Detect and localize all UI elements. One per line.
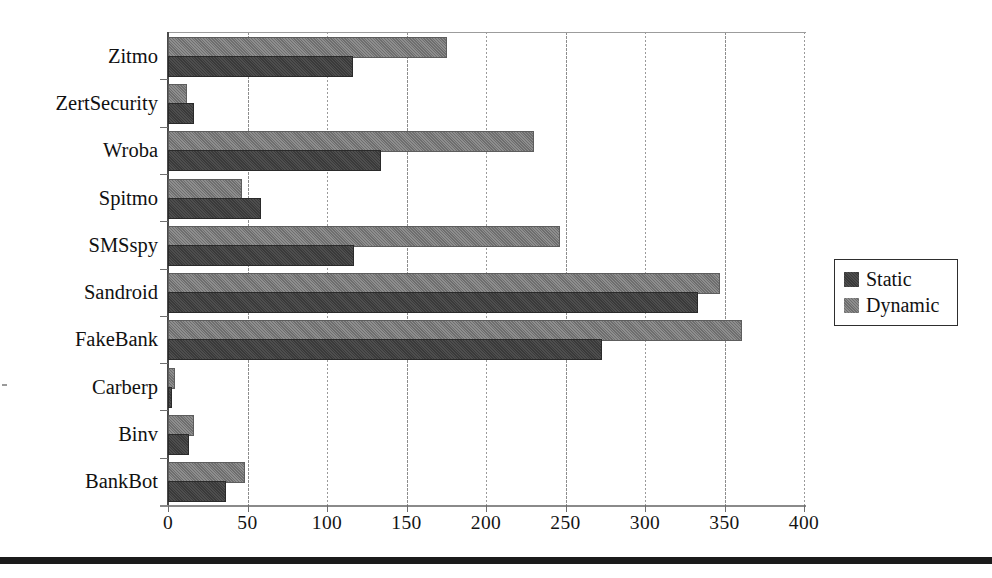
x-tick-label-400: 400 bbox=[774, 512, 834, 534]
x-tick-label-50: 50 bbox=[218, 512, 278, 534]
x-tick-100 bbox=[327, 505, 328, 512]
x-tick-label-350: 350 bbox=[695, 512, 755, 534]
gridline-400 bbox=[804, 32, 805, 505]
legend-label-dynamic: Dynamic bbox=[866, 295, 939, 315]
legend-swatch-static-icon bbox=[844, 272, 859, 287]
x-tick-200 bbox=[486, 505, 487, 512]
y-tick-bankbot bbox=[160, 458, 168, 459]
bar-dynamic-bankbot bbox=[168, 462, 245, 483]
x-tick-150 bbox=[407, 505, 408, 512]
x-tick-label-300: 300 bbox=[615, 512, 675, 534]
plot-area bbox=[168, 32, 804, 504]
category-label-sandroid: Sandroid bbox=[0, 282, 158, 303]
bar-dynamic-zertsecurity bbox=[168, 84, 187, 105]
bar-static-bankbot bbox=[168, 481, 226, 502]
x-tick-label-150: 150 bbox=[377, 512, 437, 534]
bar-dynamic-zitmo bbox=[168, 37, 447, 58]
category-label-zertsecurity: ZertSecurity bbox=[0, 93, 158, 114]
x-tick-label-250: 250 bbox=[536, 512, 596, 534]
bar-dynamic-spitmo bbox=[168, 179, 242, 200]
y-tick-zertsecurity bbox=[160, 79, 168, 80]
bar-dynamic-wroba bbox=[168, 131, 534, 152]
bar-static-wroba bbox=[168, 150, 381, 171]
legend-entry-static: Static bbox=[844, 266, 949, 292]
bar-dynamic-smsspy bbox=[168, 226, 560, 247]
category-axis-line bbox=[160, 505, 806, 507]
bar-static-zitmo bbox=[168, 56, 353, 77]
bar-static-binv bbox=[168, 434, 189, 455]
y-tick-wroba bbox=[160, 127, 168, 128]
bar-static-spitmo bbox=[168, 198, 261, 219]
category-label-binv: Binv bbox=[0, 424, 158, 445]
chart-legend: Static Dynamic bbox=[834, 259, 958, 326]
bar-static-sandroid bbox=[168, 292, 698, 313]
bar-dynamic-binv bbox=[168, 415, 194, 436]
y-tick-carberp bbox=[160, 363, 168, 364]
category-label-fakebank: FakeBank bbox=[0, 329, 158, 350]
bar-static-fakebank bbox=[168, 339, 602, 360]
x-tick-label-100: 100 bbox=[297, 512, 357, 534]
bar-static-zertsecurity bbox=[168, 103, 194, 124]
legend-label-static: Static bbox=[866, 269, 912, 289]
category-label-zitmo: Zitmo bbox=[0, 46, 158, 67]
y-tick-sandroid bbox=[160, 269, 168, 270]
legend-swatch-dynamic-icon bbox=[844, 298, 859, 313]
y-tick-binv bbox=[160, 410, 168, 411]
legend-entry-dynamic: Dynamic bbox=[844, 292, 949, 318]
category-label-smsspy: SMSspy bbox=[0, 235, 158, 256]
bar-dynamic-carberp bbox=[168, 368, 175, 389]
x-tick-50 bbox=[248, 505, 249, 512]
x-tick-label-0: 0 bbox=[138, 512, 198, 534]
category-label-bankbot: BankBot bbox=[0, 471, 158, 492]
bar-static-smsspy bbox=[168, 245, 354, 266]
bar-static-carberp bbox=[168, 387, 172, 408]
y-tick-fakebank bbox=[160, 316, 168, 317]
page-bottom-rule bbox=[0, 557, 992, 564]
x-tick-250 bbox=[566, 505, 567, 512]
x-tick-label-200: 200 bbox=[456, 512, 516, 534]
bar-dynamic-sandroid bbox=[168, 273, 720, 294]
x-tick-0 bbox=[168, 505, 169, 512]
category-label-spitmo: Spitmo bbox=[0, 188, 158, 209]
bar-dynamic-fakebank bbox=[168, 320, 742, 341]
y-tick-spitmo bbox=[160, 174, 168, 175]
x-tick-400 bbox=[804, 505, 805, 512]
category-label-wroba: Wroba bbox=[0, 140, 158, 161]
x-tick-350 bbox=[725, 505, 726, 512]
category-label-carberp: Carberp bbox=[0, 377, 158, 398]
x-tick-300 bbox=[645, 505, 646, 512]
y-tick-smsspy bbox=[160, 221, 168, 222]
